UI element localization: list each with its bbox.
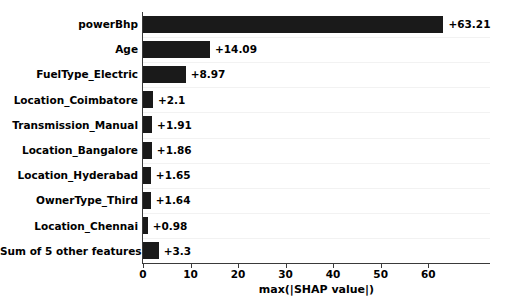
bar-value-label: +14.09	[215, 41, 257, 57]
bar-value-label: +1.64	[156, 192, 191, 208]
x-axis-tick-label: 60	[421, 268, 436, 280]
bar-value-label: +63.21	[448, 16, 490, 32]
bar-row: +2.1	[143, 88, 510, 112]
y-axis-tick-label: OwnerType_Third	[0, 188, 138, 212]
x-axis-title: max(|SHAP value|)	[143, 283, 490, 296]
bar	[143, 91, 153, 108]
x-axis-tick-mark	[333, 264, 334, 268]
bar-row: +3.3	[143, 239, 510, 263]
bar-value-label: +1.91	[157, 117, 192, 133]
bar	[143, 142, 152, 159]
x-axis-tick-mark	[381, 264, 382, 268]
bar-row: +0.98	[143, 214, 510, 238]
y-axis-tick-labels: powerBhpAgeFuelType_ElectricLocation_Coi…	[0, 12, 138, 264]
y-axis-tick-label: powerBhp	[0, 12, 138, 36]
y-axis-tick-label: Age	[0, 37, 138, 61]
bar-row: +63.21	[143, 12, 510, 36]
bar-row: +1.64	[143, 188, 510, 212]
bar	[143, 192, 151, 209]
y-axis-tick-label: Sum of 5 other features	[0, 239, 138, 263]
bar-value-label: +8.97	[191, 66, 226, 82]
y-axis-tick-label: Location_Hyderabad	[0, 163, 138, 187]
bar-row: +14.09	[143, 37, 510, 61]
bar	[143, 66, 186, 83]
bar-value-label: +2.1	[158, 92, 185, 108]
x-axis-tick-label: 10	[183, 268, 198, 280]
bar	[143, 16, 443, 33]
x-axis-tick-label: 20	[231, 268, 246, 280]
bar	[143, 116, 152, 133]
x-axis-tick-label: 40	[326, 268, 341, 280]
bar-row: +8.97	[143, 62, 510, 86]
shap-feature-importance-chart: powerBhpAgeFuelType_ElectricLocation_Coi…	[0, 0, 510, 307]
x-axis-tick-mark	[191, 264, 192, 268]
x-axis-tick-label: 0	[139, 268, 146, 280]
x-axis-tick-mark	[428, 264, 429, 268]
x-axis-tick-mark	[143, 264, 144, 268]
y-axis-tick-label: FuelType_Electric	[0, 62, 138, 86]
bar-row: +1.91	[143, 113, 510, 137]
bar	[143, 217, 148, 234]
bar-row: +1.65	[143, 163, 510, 187]
y-axis-spine	[142, 12, 143, 264]
bar	[143, 41, 210, 58]
bar	[143, 167, 151, 184]
x-axis-tick-mark	[238, 264, 239, 268]
bar	[143, 242, 159, 259]
x-axis-tick-label: 30	[278, 268, 293, 280]
x-axis-ticks: 0102030405060	[143, 264, 490, 284]
bar-value-label: +3.3	[164, 243, 191, 259]
x-axis-tick-label: 50	[373, 268, 388, 280]
bar-value-label: +1.86	[157, 142, 192, 158]
y-axis-tick-label: Location_Chennai	[0, 214, 138, 238]
x-axis-tick-mark	[286, 264, 287, 268]
y-axis-tick-label: Transmission_Manual	[0, 113, 138, 137]
bar-value-label: +0.98	[153, 218, 188, 234]
plot-area: +63.21+14.09+8.97+2.1+1.91+1.86+1.65+1.6…	[143, 12, 490, 264]
bar-value-label: +1.65	[156, 167, 191, 183]
y-axis-tick-label: Location_Coimbatore	[0, 88, 138, 112]
bar-row: +1.86	[143, 138, 510, 162]
y-axis-tick-label: Location_Bangalore	[0, 138, 138, 162]
